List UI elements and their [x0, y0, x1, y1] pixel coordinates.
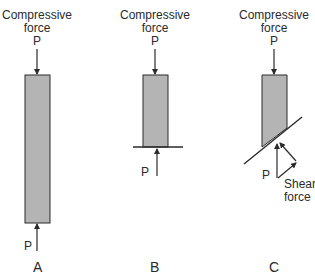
force-p-top: P	[2, 35, 72, 48]
normal-force-arrow-c	[280, 143, 296, 161]
force-p-bottom-b: P	[141, 166, 149, 179]
compressive-force-label-b: Compressive force P	[120, 9, 190, 48]
compressive-force-label-c: Compressive force P	[239, 9, 309, 48]
column-c	[262, 75, 287, 147]
force-p-top: P	[120, 35, 190, 48]
panel-a	[25, 49, 50, 251]
panel-label-c: C	[269, 259, 279, 275]
panel-c	[244, 49, 302, 178]
shear-force-arrow-c	[278, 163, 296, 178]
panel-label-b: B	[150, 259, 159, 275]
column-a	[25, 75, 50, 223]
panel-b	[133, 49, 183, 176]
compressive-force-label-a: Compressive force P	[2, 9, 72, 48]
force-p-top: P	[239, 35, 309, 48]
panel-label-a: A	[33, 259, 42, 275]
shear-line2: force	[284, 191, 315, 204]
shear-force-label-c: Shear force	[284, 178, 315, 204]
force-p-bottom-c: P	[262, 169, 270, 182]
force-p-bottom-a: P	[24, 240, 32, 253]
column-b	[143, 75, 168, 147]
